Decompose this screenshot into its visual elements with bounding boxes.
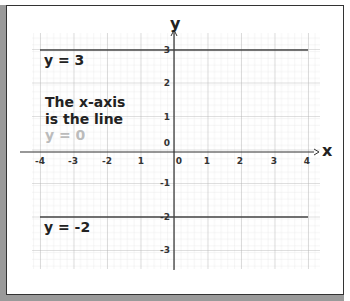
y-axis-label: y [170, 14, 180, 33]
label-y-minus-2: y = -2 [44, 219, 90, 235]
x-tick: -4 [35, 156, 45, 166]
note-line-1: The x-axis [45, 94, 125, 110]
label-y-3: y = 3 [44, 52, 84, 68]
y-tick: -3 [156, 245, 170, 255]
x-tick: 1 [204, 156, 210, 166]
x-axis-label: x [322, 141, 332, 160]
x-tick: 3 [271, 156, 277, 166]
y-tick: -1 [156, 178, 170, 188]
note-line-2: is the line [45, 111, 123, 127]
y-tick: 0 [156, 138, 170, 148]
x-tick: 0 [176, 156, 182, 166]
x-tick: -3 [68, 156, 78, 166]
x-tick: 4 [304, 156, 310, 166]
y-tick: 1 [156, 112, 170, 122]
x-tick: -2 [102, 156, 112, 166]
y-tick: -2 [156, 212, 170, 222]
x-tick: 1 [138, 156, 144, 166]
note-line-3: y = 0 [45, 127, 85, 143]
y-tick: 2 [156, 78, 170, 88]
graph-paper [0, 0, 350, 301]
y-tick: 3 [156, 45, 170, 55]
x-tick: 2 [237, 156, 243, 166]
